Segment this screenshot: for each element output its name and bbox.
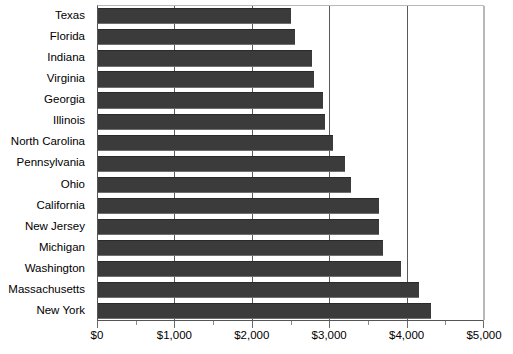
bar-row: [98, 301, 483, 322]
bar-row: [98, 217, 483, 238]
y-axis-label: Texas: [0, 5, 92, 26]
bar[interactable]: [98, 219, 379, 235]
x-axis-ticks: [97, 321, 484, 328]
bar[interactable]: [98, 92, 323, 108]
x-axis-label: $3,000: [312, 329, 347, 341]
y-axis-label: Florida: [0, 26, 92, 47]
y-axis-label: Indiana: [0, 47, 92, 68]
x-axis-label: $1,000: [157, 329, 192, 341]
bar-row: [98, 153, 483, 174]
bar-row: [98, 27, 483, 48]
bar[interactable]: [98, 261, 401, 277]
bar-row: [98, 259, 483, 280]
x-axis-value-labels: $0$1,000$2,000$3,000$4,000$5,000: [97, 329, 484, 349]
y-axis-label: California: [0, 195, 92, 216]
y-axis-label: Washington: [0, 258, 92, 279]
bar-row: [98, 69, 483, 90]
bar-row: [98, 175, 483, 196]
bar-row: [98, 196, 483, 217]
bar-chart: TexasFloridaIndianaVirginiaGeorgiaIllino…: [0, 0, 513, 354]
y-axis-label: Virginia: [0, 68, 92, 89]
x-axis-label: $2,000: [234, 329, 269, 341]
bar-row: [98, 90, 483, 111]
y-axis-label: New Jersey: [0, 216, 92, 237]
bar[interactable]: [98, 177, 351, 193]
y-axis-label: New York: [0, 300, 92, 321]
bar[interactable]: [98, 240, 383, 256]
x-axis-minor-tick: [368, 321, 369, 325]
x-axis-label: $0: [91, 329, 104, 341]
bar[interactable]: [98, 29, 295, 45]
y-axis-label: Georgia: [0, 89, 92, 110]
y-axis-label: Pennsylvania: [0, 152, 92, 173]
bar[interactable]: [98, 50, 312, 66]
bar[interactable]: [98, 303, 431, 319]
x-axis-tick: [97, 321, 98, 328]
y-axis-label: Michigan: [0, 237, 92, 258]
bar-row: [98, 280, 483, 301]
y-axis-label: North Carolina: [0, 131, 92, 152]
y-axis-label: Ohio: [0, 174, 92, 195]
x-axis-tick: [407, 321, 408, 328]
bar[interactable]: [98, 114, 325, 130]
x-axis-minor-tick: [136, 321, 137, 325]
x-axis-tick: [174, 321, 175, 328]
bar[interactable]: [98, 8, 291, 24]
y-axis-category-labels: TexasFloridaIndianaVirginiaGeorgiaIllino…: [0, 5, 92, 321]
bar-row: [98, 48, 483, 69]
bar-row: [98, 111, 483, 132]
bar[interactable]: [98, 156, 345, 172]
bar-row: [98, 6, 483, 27]
y-axis-label: Massachusetts: [0, 279, 92, 300]
bar[interactable]: [98, 198, 379, 214]
x-axis-minor-tick: [291, 321, 292, 325]
x-axis-minor-tick: [445, 321, 446, 325]
bar[interactable]: [98, 135, 333, 151]
bar[interactable]: [98, 71, 314, 87]
bar[interactable]: [98, 282, 419, 298]
plot-area: [97, 5, 484, 321]
x-axis-tick: [329, 321, 330, 328]
x-axis-tick: [252, 321, 253, 328]
bars-layer: [98, 6, 483, 320]
bar-row: [98, 238, 483, 259]
bar-row: [98, 132, 483, 153]
gridline: [484, 6, 485, 320]
x-axis-minor-tick: [213, 321, 214, 325]
y-axis-label: Illinois: [0, 110, 92, 131]
x-axis-label: $4,000: [389, 329, 424, 341]
x-axis-label: $5,000: [466, 329, 501, 341]
x-axis-tick: [483, 321, 484, 328]
